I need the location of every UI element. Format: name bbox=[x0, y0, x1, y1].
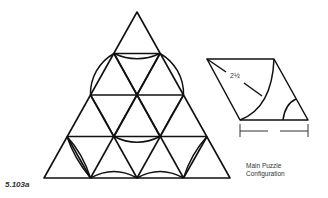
caption-line-2: Configuration bbox=[246, 170, 285, 178]
dimension-bar bbox=[240, 124, 308, 137]
rhombus-piece bbox=[207, 59, 308, 120]
caption-line-1: Main Puzzle bbox=[246, 162, 285, 170]
caption: Main Puzzle Configuration bbox=[246, 162, 285, 178]
dimension-label: 2½ bbox=[230, 72, 240, 79]
main-puzzle-triangle bbox=[44, 12, 230, 178]
puzzle-arcs bbox=[67, 54, 207, 179]
figure-label: 5.103a bbox=[5, 180, 29, 189]
